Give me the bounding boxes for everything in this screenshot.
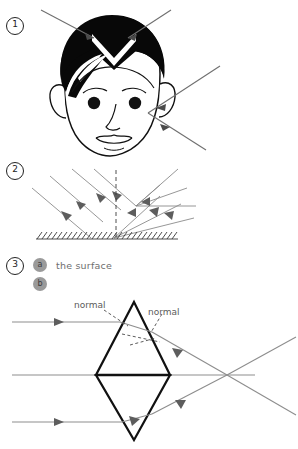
worksheet-page: 1 [0, 0, 298, 449]
lower-ray-arrowhead [175, 400, 186, 409]
figure-number-3: 3 [6, 257, 24, 275]
prism-refraction-figure [0, 290, 298, 449]
hatched-surface [36, 232, 178, 239]
incoming-rays [12, 322, 122, 422]
option-badge-b[interactable]: b [33, 277, 47, 291]
upper-ray-arrowhead [172, 348, 183, 358]
option-badge-a[interactable]: a [33, 258, 47, 272]
head-diffuse-reflection-figure [30, 8, 230, 160]
head-illustration [50, 15, 175, 156]
specular-reflection-figure [28, 166, 208, 250]
reflected-ray-group [114, 169, 196, 238]
lower-refracted-ray [122, 337, 296, 422]
incoming-ray-arrowheads [54, 318, 64, 426]
figure-number-1: 1 [6, 17, 24, 35]
incoming-ray-arrowheads [61, 191, 122, 221]
figure-number-2: 2 [6, 162, 24, 180]
option-a-text: the surface [56, 260, 112, 271]
upper-refracted-ray [120, 322, 296, 415]
